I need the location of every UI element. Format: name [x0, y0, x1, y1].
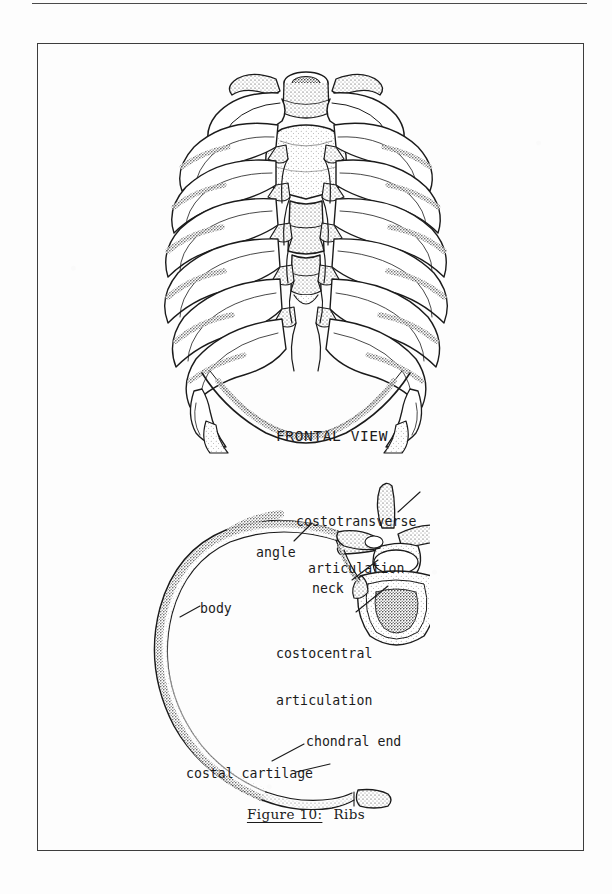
figure-caption: Figure 10:Ribs — [0, 806, 612, 822]
label-frontal-view: FRONTAL VIEW — [276, 428, 388, 445]
label-costal-cartilage: costal cartilage — [186, 766, 313, 782]
label-costocentral-articulation: costocentral articulation — [276, 615, 372, 724]
label-costocentral-line1: costocentral — [276, 646, 372, 662]
right-true-ribs — [316, 123, 447, 407]
figure-caption-number: Figure 10: — [247, 806, 322, 822]
figure-caption-title: Ribs — [333, 806, 365, 822]
label-body: body — [200, 601, 232, 617]
left-true-ribs — [165, 123, 296, 407]
label-neck: neck — [312, 581, 344, 597]
label-angle: angle — [256, 545, 296, 561]
top-horizontal-rule — [32, 3, 587, 4]
label-costotransverse-articulation: costotransverse articulation — [296, 483, 417, 592]
ribcage-illustration — [130, 55, 482, 455]
label-costotransverse-line2: articulation — [296, 561, 417, 577]
label-chondral-end: chondral end — [306, 734, 401, 750]
label-costocentral-line2: articulation — [276, 693, 372, 709]
label-costotransverse-line1: costotransverse — [296, 514, 417, 530]
top-vertebra — [283, 72, 329, 118]
